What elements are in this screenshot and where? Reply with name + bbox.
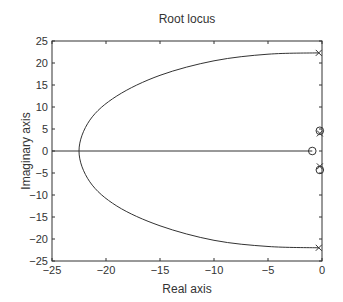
locus-branch — [79, 53, 319, 248]
y-tick-label: 15 — [36, 79, 48, 91]
y-tick-label: −15 — [29, 211, 48, 223]
x-tick-label: −20 — [97, 264, 116, 276]
x-tick-label: −5 — [262, 264, 275, 276]
root-locus-plot: −25−20−15−10−50−25−20−15−10−50510152025 — [0, 0, 343, 302]
y-tick-label: −25 — [29, 255, 48, 267]
y-tick-label: 25 — [36, 35, 48, 47]
y-tick-label: −5 — [35, 167, 48, 179]
y-tick-label: 10 — [36, 101, 48, 113]
x-tick-label: −10 — [205, 264, 224, 276]
y-tick-label: 0 — [42, 145, 48, 157]
y-tick-label: −20 — [29, 233, 48, 245]
x-tick-label: 0 — [319, 264, 325, 276]
y-tick-label: −10 — [29, 189, 48, 201]
x-tick-label: −15 — [151, 264, 170, 276]
y-tick-label: 5 — [42, 123, 48, 135]
y-tick-label: 20 — [36, 57, 48, 69]
